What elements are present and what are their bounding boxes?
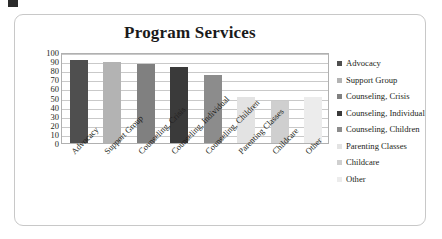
legend-swatch-icon: [337, 78, 342, 83]
chart-panel: Program Services 1009080706050403020100 …: [14, 14, 426, 226]
legend-swatch-icon: [337, 144, 342, 149]
chart-legend: AdvocacySupport GroupCounseling, CrisisC…: [337, 58, 425, 190]
legend-swatch-icon: [337, 111, 342, 116]
legend-item: Other: [337, 174, 425, 184]
legend-label: Parenting Classes: [346, 141, 407, 151]
chart-title: Program Services: [55, 23, 325, 43]
legend-item: Parenting Classes: [337, 141, 425, 151]
gridline: [62, 81, 328, 82]
gridline: [62, 90, 328, 91]
legend-label: Counseling, Children: [346, 124, 420, 134]
y-axis-tick-60: 60: [27, 85, 59, 94]
legend-swatch-icon: [337, 61, 342, 66]
legend-item: Childcare: [337, 157, 425, 167]
legend-swatch-icon: [337, 94, 342, 99]
legend-label: Support Group: [346, 75, 397, 85]
legend-item: Counseling, Crisis: [337, 91, 425, 101]
y-axis-tick-50: 50: [27, 95, 59, 104]
legend-item: Counseling, Individual: [337, 108, 425, 118]
y-axis-tick-40: 40: [27, 104, 59, 113]
legend-item: Support Group: [337, 75, 425, 85]
page-crop-mark: [8, 0, 18, 7]
legend-label: Advocacy: [346, 58, 381, 68]
y-axis-tick-30: 30: [27, 113, 59, 122]
legend-swatch-icon: [337, 127, 342, 132]
gridline: [62, 63, 328, 64]
legend-label: Counseling, Crisis: [346, 91, 410, 101]
x-axis-labels: AdvocacySupport GroupCounseling, CrisisC…: [15, 145, 345, 215]
legend-label: Counseling, Individual: [346, 108, 425, 118]
legend-label: Other: [346, 174, 366, 184]
bar-other: [304, 97, 322, 143]
gridline: [62, 72, 328, 73]
legend-item: Counseling, Children: [337, 124, 425, 134]
legend-swatch-icon: [337, 160, 342, 165]
legend-item: Advocacy: [337, 58, 425, 68]
legend-swatch-icon: [337, 177, 342, 182]
legend-label: Childcare: [346, 157, 379, 167]
y-axis: 1009080706050403020100: [27, 47, 59, 150]
gridline: [62, 54, 328, 55]
bar-advocacy: [70, 60, 88, 143]
